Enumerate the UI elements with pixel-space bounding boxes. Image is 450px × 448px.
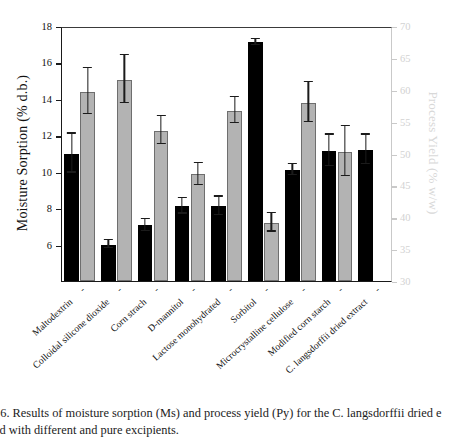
- category-label: Modified corn starch: [265, 296, 332, 358]
- error-cap-top: [324, 133, 333, 134]
- error-bar: [87, 67, 88, 114]
- tick-label-right: 70: [400, 22, 444, 33]
- bar-moisture-sorption: [64, 154, 79, 282]
- error-cap-top: [230, 96, 239, 97]
- category-labels: -Maltodextrin-Colloidal silicone dioxide…: [0, 284, 450, 394]
- bar-process-yield: [191, 174, 206, 281]
- category-tick-dash: -: [298, 284, 308, 294]
- tick-mark-left: [56, 209, 61, 210]
- tick-mark-right: [392, 155, 397, 156]
- error-cap-bottom: [177, 212, 186, 213]
- bar-process-yield: [154, 131, 169, 281]
- tick-mark-right: [392, 59, 397, 60]
- error-bar: [144, 218, 145, 231]
- error-bar: [255, 38, 256, 45]
- tick-mark-left: [56, 246, 61, 247]
- category-tick-dash: -: [114, 284, 124, 294]
- error-cap-bottom: [361, 163, 370, 164]
- bar-process-yield: [338, 152, 353, 281]
- bar-moisture-sorption: [358, 150, 373, 281]
- bar-moisture-sorption: [248, 42, 263, 281]
- error-cap-top: [340, 125, 349, 126]
- error-cap-top: [157, 115, 166, 116]
- error-bar: [292, 163, 293, 176]
- error-bar: [271, 212, 272, 232]
- error-cap-bottom: [230, 122, 239, 123]
- error-cap-top: [141, 218, 150, 219]
- category-tick-dash: -: [372, 284, 382, 294]
- error-cap-bottom: [304, 121, 313, 122]
- bar-group-layer: [62, 28, 391, 281]
- error-cap-top: [361, 133, 370, 134]
- bar-moisture-sorption: [138, 225, 153, 281]
- error-cap-bottom: [267, 230, 276, 231]
- bar-moisture-sorption: [322, 151, 337, 281]
- bar-moisture-sorption: [175, 206, 190, 281]
- category-label: Sorbitol: [228, 296, 258, 325]
- tick-mark-right: [392, 218, 397, 219]
- error-bar: [108, 239, 109, 248]
- error-cap-top: [177, 197, 186, 198]
- error-cap-top: [267, 212, 276, 213]
- bar-process-yield: [227, 111, 242, 281]
- category-tick-dash: -: [151, 284, 161, 294]
- category-tick-dash: -: [335, 284, 345, 294]
- category-tick-dash: -: [261, 284, 271, 294]
- bar-process-yield: [80, 92, 95, 281]
- tick-mark-right: [392, 27, 397, 28]
- error-bar: [328, 133, 329, 166]
- error-cap-bottom: [157, 143, 166, 144]
- error-cap-top: [304, 81, 313, 82]
- error-cap-top: [120, 54, 129, 55]
- error-cap-top: [83, 67, 92, 68]
- error-cap-top: [214, 195, 223, 196]
- y-axis-right-title: Process Yield (% w/w): [425, 53, 441, 253]
- figure-container: 681012141618303540455055606570 Moisture …: [0, 0, 450, 448]
- category-tick-dash: -: [77, 284, 87, 294]
- error-bar: [181, 197, 182, 213]
- tick-mark-right: [392, 123, 397, 124]
- error-cap-bottom: [141, 230, 150, 231]
- error-bar: [218, 195, 219, 215]
- bar-process-yield: [264, 223, 279, 281]
- bar-moisture-sorption: [101, 245, 116, 281]
- error-cap-top: [104, 239, 113, 240]
- tick-mark-right: [392, 91, 397, 92]
- error-cap-bottom: [193, 184, 202, 185]
- error-cap-bottom: [340, 175, 349, 176]
- error-bar: [197, 162, 198, 186]
- error-bar: [71, 132, 72, 172]
- tick-label-left: 18: [8, 22, 52, 33]
- bar-moisture-sorption: [285, 170, 300, 281]
- error-cap-top: [193, 162, 202, 163]
- tick-mark-left: [56, 173, 61, 174]
- category-tick-dash: -: [225, 284, 235, 294]
- error-cap-bottom: [120, 102, 129, 103]
- error-bar: [308, 81, 309, 123]
- error-bar: [365, 133, 366, 164]
- error-bar: [124, 54, 125, 103]
- error-cap-bottom: [67, 171, 76, 172]
- tick-mark-left: [56, 63, 61, 64]
- bar-moisture-sorption: [211, 206, 226, 281]
- error-bar: [160, 115, 161, 144]
- error-cap-bottom: [251, 44, 260, 45]
- plot-area: [61, 27, 392, 282]
- tick-mark-left: [56, 100, 61, 101]
- error-bar: [344, 125, 345, 176]
- error-cap-bottom: [324, 165, 333, 166]
- bar-process-yield: [117, 80, 132, 281]
- tick-mark-left: [56, 136, 61, 137]
- error-bar: [234, 96, 235, 123]
- tick-mark-right: [392, 250, 397, 251]
- error-cap-top: [67, 132, 76, 133]
- category-tick-dash: -: [188, 284, 198, 294]
- error-cap-top: [288, 163, 297, 164]
- error-cap-bottom: [288, 174, 297, 175]
- category-label: Lactose monohydrated: [149, 296, 222, 363]
- tick-mark-left: [56, 27, 61, 28]
- figure-caption: 16. Results of moisture sorption (Ms) an…: [0, 405, 450, 439]
- category-label: Corn strach: [108, 296, 148, 334]
- error-cap-bottom: [214, 214, 223, 215]
- error-cap-bottom: [83, 113, 92, 114]
